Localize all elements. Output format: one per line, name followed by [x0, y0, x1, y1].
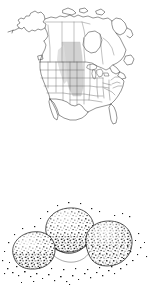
- tuber-illustration-svg: [0, 196, 151, 287]
- page-root: [0, 0, 151, 287]
- tuber-cluster-illustration-figure: [0, 196, 151, 287]
- range-map-svg: [0, 0, 151, 140]
- north-america-range-map-figure: [0, 0, 151, 140]
- blank-spacer: [0, 140, 151, 196]
